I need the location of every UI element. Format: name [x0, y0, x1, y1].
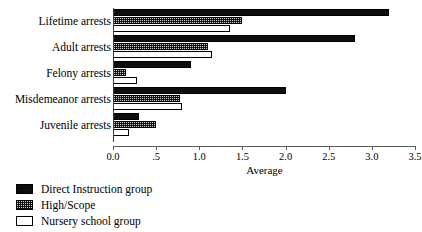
category-label-adult-arrests: Adult arrests [0, 34, 111, 60]
bar-nursery-misdemeanor [113, 103, 182, 110]
x-axis-tick [286, 146, 287, 150]
bar-direct-instruction-felony [113, 61, 191, 68]
white-swatch-icon [16, 216, 33, 226]
legend-label-highscope: High/Scope [41, 198, 95, 213]
solid-black-swatch-icon [16, 184, 33, 194]
x-axis-tick-label: 1.0 [193, 151, 206, 162]
category-row: Misdemeanor arrests [0, 86, 419, 112]
x-axis-tick-label: 2.0 [279, 151, 292, 162]
bar-direct-instruction-lifetime [113, 9, 389, 16]
plot-area: Lifetime arrests Adult arrests Felony ar… [0, 8, 419, 146]
x-axis-tick [156, 146, 157, 150]
category-row: Adult arrests [0, 34, 419, 60]
legend-label-nursery-school: Nursery school group [41, 214, 141, 229]
x-axis-tick [199, 146, 200, 150]
x-axis-tick-label: 1.5 [236, 151, 249, 162]
bar-group-adult-arrests [113, 34, 413, 60]
bar-nursery-adult [113, 51, 212, 58]
x-axis-tick [242, 146, 243, 150]
x-axis-tick-label: 2.5 [322, 151, 335, 162]
bar-direct-instruction-misdemeanor [113, 87, 286, 94]
category-row: Juvenile arrests [0, 112, 419, 138]
category-label-lifetime-arrests: Lifetime arrests [0, 8, 111, 34]
category-row: Felony arrests [0, 60, 419, 86]
category-label-felony-arrests: Felony arrests [0, 60, 111, 86]
bar-highscope-misdemeanor [113, 95, 180, 102]
legend-item-highscope: High/Scope [16, 198, 276, 213]
x-axis-tick-label: .5 [152, 151, 160, 162]
x-axis-tick [415, 146, 416, 150]
category-label-misdemeanor-arrests: Misdemeanor arrests [0, 86, 111, 112]
bar-group-misdemeanor-arrests [113, 86, 413, 112]
x-axis-tick-label: 3.0 [365, 151, 378, 162]
x-axis-tick [113, 146, 114, 150]
bar-highscope-felony [113, 69, 126, 76]
bar-direct-instruction-adult [113, 35, 355, 42]
x-axis-line [113, 146, 416, 147]
category-label-juvenile-arrests: Juvenile arrests [0, 112, 111, 138]
bar-nursery-juvenile [113, 129, 129, 136]
bar-nursery-felony [113, 77, 137, 84]
y-axis-line [113, 8, 114, 142]
x-axis-tick-label: 0.0 [106, 151, 119, 162]
bar-highscope-juvenile [113, 121, 156, 128]
bar-direct-instruction-juvenile [113, 113, 139, 120]
bar-group-felony-arrests [113, 60, 413, 86]
x-axis-title: Average [113, 164, 416, 176]
legend-label-direct-instruction: Direct Instruction group [41, 182, 152, 197]
x-axis-tick [372, 146, 373, 150]
bar-group-juvenile-arrests [113, 112, 413, 138]
legend-item-nursery-school: Nursery school group [16, 214, 276, 229]
bar-highscope-lifetime [113, 17, 242, 24]
x-axis-tick [329, 146, 330, 150]
bar-group-lifetime-arrests [113, 8, 413, 34]
category-row: Lifetime arrests [0, 8, 419, 34]
bar-nursery-lifetime [113, 25, 230, 32]
dotted-gray-swatch-icon [16, 200, 33, 210]
x-axis-tick-label: 3.5 [408, 151, 421, 162]
chart-legend: Direct Instruction group High/Scope Nurs… [16, 182, 276, 230]
bar-highscope-adult [113, 43, 208, 50]
legend-item-direct-instruction: Direct Instruction group [16, 182, 276, 197]
